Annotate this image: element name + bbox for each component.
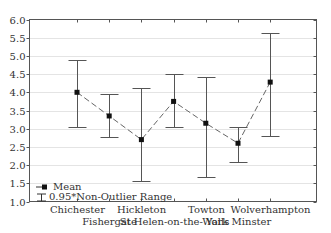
chart: 1.01.52.02.53.03.54.04.55.05.56.0 Chiche… [0, 0, 331, 233]
error-bar [262, 34, 280, 137]
plot-frame [30, 20, 317, 202]
error-bars [69, 34, 280, 182]
y-tick-label: 5.5 [10, 33, 26, 44]
y-tick-label: 1.0 [10, 197, 26, 208]
mean-marker [203, 121, 208, 126]
mean-marker [107, 113, 112, 118]
mean-marker [75, 90, 80, 95]
mean-marker [139, 137, 144, 142]
y-tick-label: 2.0 [10, 160, 26, 171]
y-tick-label: 4.0 [10, 87, 26, 98]
mean-line [77, 82, 270, 143]
mean-marker [236, 141, 241, 146]
y-tick-label: 1.5 [10, 178, 26, 189]
y-tick-label: 6.0 [10, 15, 26, 26]
mean-marker [268, 80, 273, 85]
legend-range-label: 0.95*Non-Outlier Range [49, 191, 172, 202]
x-category-label: Wolverhampton [231, 204, 311, 215]
y-tick-label: 5.0 [10, 51, 26, 62]
x-category-label: Towton [188, 204, 226, 215]
y-tick-label: 3.5 [10, 106, 26, 117]
mean-markers [75, 80, 273, 146]
y-tick-label: 3.0 [10, 124, 26, 135]
x-category-label: Chichester [50, 204, 105, 215]
y-tick-label: 2.5 [10, 142, 26, 153]
mean-marker [171, 99, 176, 104]
x-category-label: Hickleton [117, 204, 167, 215]
legend-range-icon [37, 194, 46, 201]
y-tick-label: 4.5 [10, 69, 26, 80]
x-category-label: York Minster [205, 216, 272, 227]
legend-mean-marker-icon [42, 185, 47, 190]
legend: Mean 0.95*Non-Outlier Range [36, 181, 172, 202]
